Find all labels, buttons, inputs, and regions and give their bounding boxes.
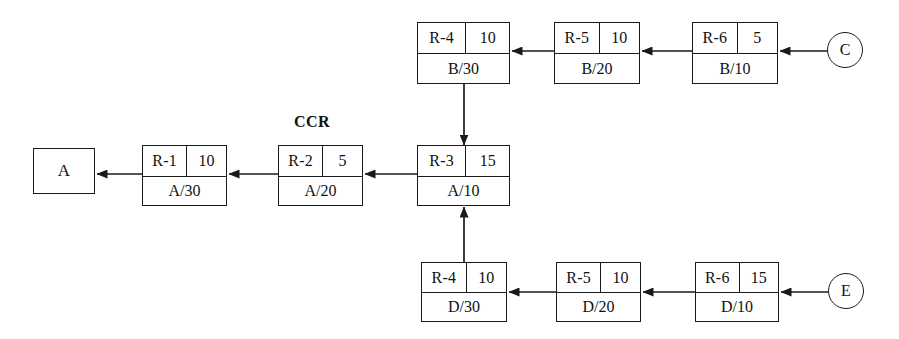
resource-node-d-r6: R-615D/10 xyxy=(695,262,779,322)
node-header-row: R-510 xyxy=(555,23,639,54)
node-part-label: D/30 xyxy=(422,293,506,321)
resource-node-b-r5: R-510B/20 xyxy=(554,22,640,84)
node-resource-id: R-2 xyxy=(279,146,323,176)
terminal-node-A: A xyxy=(33,148,95,194)
resource-node-a-r3: R-315A/10 xyxy=(417,145,510,206)
node-capacity-value: 10 xyxy=(466,23,509,53)
node-resource-id: R-4 xyxy=(418,23,466,53)
resource-node-a-r2: R-25A/20 xyxy=(278,145,363,206)
node-capacity-value: 5 xyxy=(323,146,362,176)
resource-node-b-r6: R-65B/10 xyxy=(692,22,778,84)
node-part-label: A/10 xyxy=(418,177,509,206)
node-part-label: A/20 xyxy=(279,177,362,206)
terminal-node-E: E xyxy=(828,273,864,309)
node-header-row: R-410 xyxy=(418,23,509,54)
node-part-label: A/30 xyxy=(143,177,226,206)
node-header-row: R-510 xyxy=(557,263,640,293)
node-header-row: R-410 xyxy=(422,263,506,293)
resource-node-d-r4: R-410D/30 xyxy=(421,262,507,322)
node-capacity-value: 15 xyxy=(466,146,509,176)
terminal-node-C: C xyxy=(827,32,863,68)
annotation-ccr: CCR xyxy=(294,113,330,131)
node-resource-id: R-6 xyxy=(696,263,740,292)
diagram-canvas: R-410B/30R-510B/20R-65B/10R-110A/30R-25A… xyxy=(0,0,899,339)
resource-node-d-r5: R-510D/20 xyxy=(556,262,641,322)
node-resource-id: R-4 xyxy=(422,263,467,292)
node-part-label: B/10 xyxy=(693,54,777,83)
node-header-row: R-110 xyxy=(143,146,226,177)
node-capacity-value: 15 xyxy=(740,263,778,292)
resource-node-a-r1: R-110A/30 xyxy=(142,145,227,206)
node-capacity-value: 10 xyxy=(467,263,506,292)
node-part-label: D/20 xyxy=(557,293,640,321)
node-part-label: B/30 xyxy=(418,54,509,83)
node-capacity-value: 10 xyxy=(600,23,639,53)
node-capacity-value: 5 xyxy=(738,23,777,53)
node-resource-id: R-5 xyxy=(557,263,601,292)
node-header-row: R-25 xyxy=(279,146,362,177)
node-capacity-value: 10 xyxy=(187,146,226,176)
node-capacity-value: 10 xyxy=(601,263,640,292)
node-header-row: R-65 xyxy=(693,23,777,54)
node-resource-id: R-5 xyxy=(555,23,600,53)
resource-node-b-r4: R-410B/30 xyxy=(417,22,510,84)
node-header-row: R-615 xyxy=(696,263,778,293)
node-resource-id: R-1 xyxy=(143,146,187,176)
node-part-label: D/10 xyxy=(696,293,778,321)
node-header-row: R-315 xyxy=(418,146,509,177)
node-part-label: B/20 xyxy=(555,54,639,83)
node-resource-id: R-3 xyxy=(418,146,466,176)
node-resource-id: R-6 xyxy=(693,23,738,53)
